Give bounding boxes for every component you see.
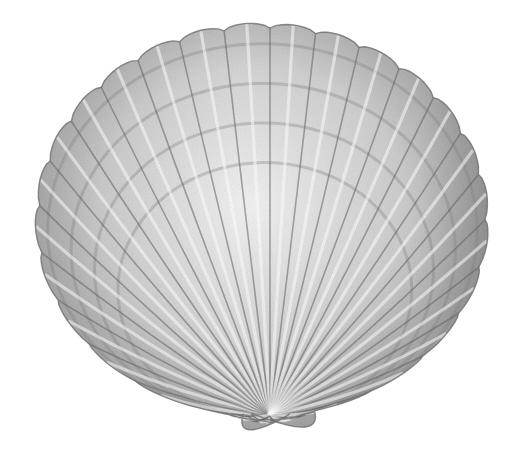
shell-body [0, 0, 524, 460]
scallop-shell-illustration [0, 0, 524, 460]
scallop-shell-drawing [0, 0, 524, 460]
shell-texture [0, 0, 524, 460]
